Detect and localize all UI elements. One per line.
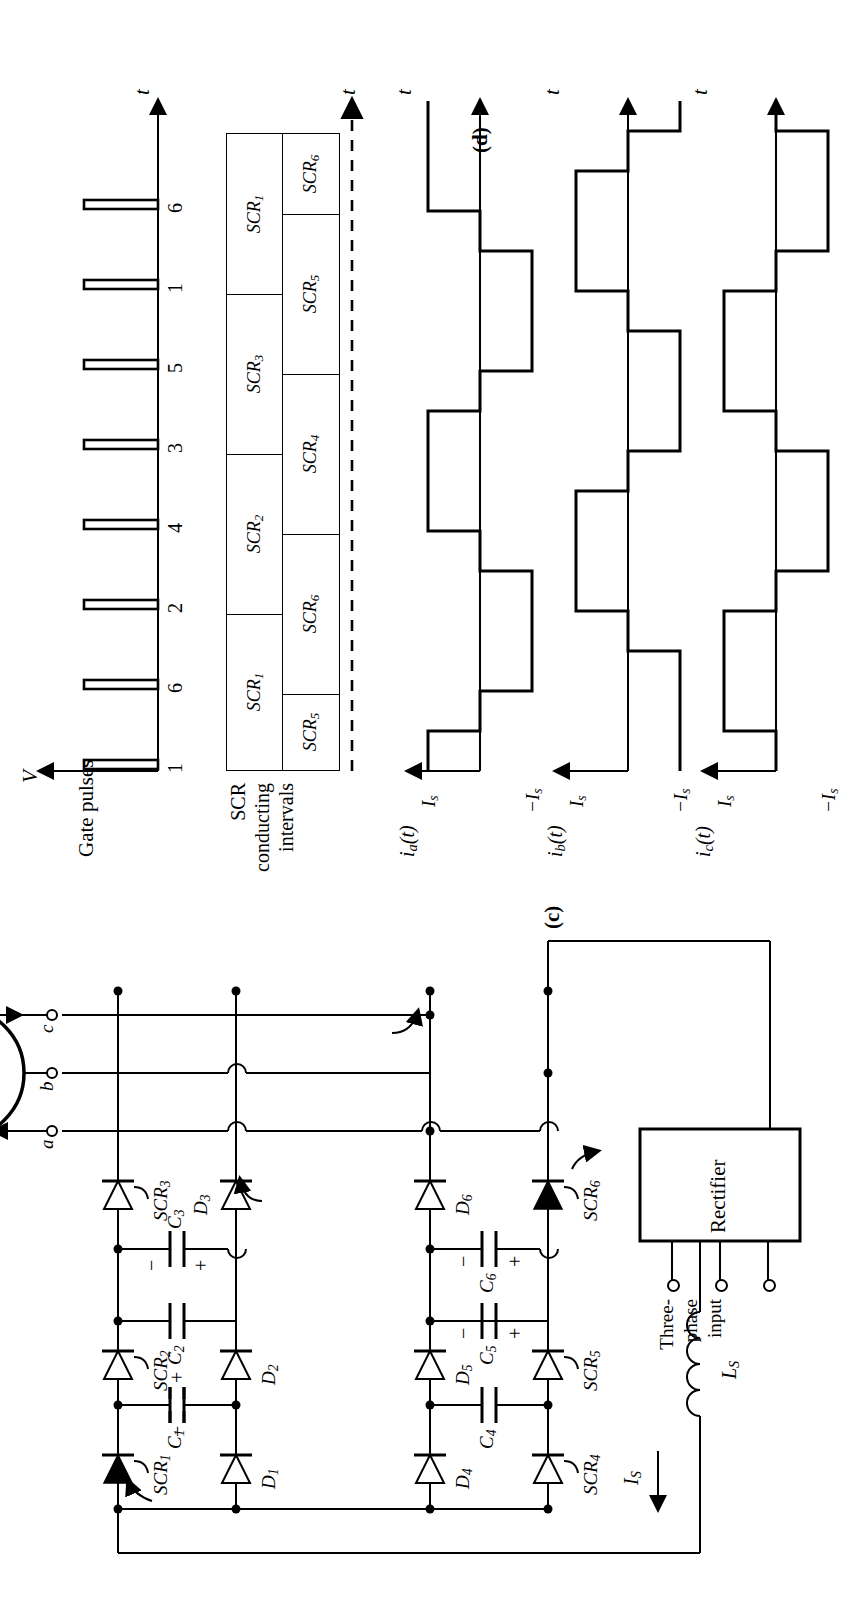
c3-minus-sign: − xyxy=(140,1260,163,1271)
scr-table-bottom-cell-3: SCR5 xyxy=(282,213,340,375)
d5-symbol xyxy=(414,1351,446,1379)
scr1-symbol xyxy=(102,1455,148,1483)
circuit-d2-label: D2 xyxy=(258,1364,282,1385)
scr-table-bottom-cell-1: SCR6 xyxy=(282,533,340,695)
gate-tick-1: 6 xyxy=(164,683,187,693)
ic-level-neg-label: −Is xyxy=(818,789,842,813)
scr2-symbol xyxy=(102,1351,148,1379)
ic-waveform-svg xyxy=(696,41,843,801)
ib-level-pos-label: Is xyxy=(566,795,590,807)
ib-axis-label: ib(t) xyxy=(544,825,569,857)
phase-a-terminal-label: a xyxy=(36,1140,58,1150)
source-current-label: IS xyxy=(620,1471,645,1485)
c6-minus-sign: − xyxy=(452,1256,475,1267)
gate-axis-v-label: V xyxy=(18,770,43,783)
circuit-scr4-label: SCR4 xyxy=(580,1454,604,1495)
ia-waveform-svg xyxy=(400,41,570,801)
scr-conducting-intervals-caption: SCR conducting intervals xyxy=(226,783,298,885)
scr-table-top-cell-0: SCR1 xyxy=(226,613,284,771)
scr-table-bottom-cell-4: SCR6 xyxy=(282,133,340,215)
input-terminal-3 xyxy=(763,1279,776,1292)
input-terminal-2 xyxy=(715,1279,728,1292)
ia-level-neg-label: −Is xyxy=(522,789,546,813)
circuit-scr5-label: SCR5 xyxy=(580,1350,604,1391)
scr5-symbol xyxy=(532,1351,578,1379)
circuit-d6-label: D6 xyxy=(452,1194,476,1215)
gate-tick-3: 4 xyxy=(164,523,187,533)
gate-tick-0: 1 xyxy=(164,763,187,773)
circuit-d1-label: D1 xyxy=(258,1468,282,1489)
phase-b-terminal-label: b xyxy=(36,1082,58,1092)
c3-plus-sign: + xyxy=(190,1260,213,1271)
c5-minus-sign: − xyxy=(452,1328,475,1339)
three-phase-input-label: Three- phase input xyxy=(655,1299,726,1373)
circuit-scr6-label: SCR6 xyxy=(580,1180,604,1221)
scr3-symbol xyxy=(102,1181,148,1209)
circuit-c6-label: C6 xyxy=(476,1273,500,1293)
gate-pulse-svg xyxy=(18,41,218,801)
d4-symbol xyxy=(414,1455,446,1483)
phase-c-terminal-label: c xyxy=(36,1025,58,1033)
circuit-c2-label: C2 xyxy=(164,1345,188,1365)
scr-table-bottom-cell-0: SCR5 xyxy=(282,693,340,771)
d2-symbol xyxy=(220,1351,252,1379)
scr-table-axis-t-label: t xyxy=(336,89,361,95)
gate-tick-5: 5 xyxy=(164,363,187,373)
gate-tick-6: 1 xyxy=(164,283,187,293)
ia-axis-t-label: t xyxy=(392,89,417,95)
circuit-d5-label: D5 xyxy=(452,1364,476,1385)
gate-tick-7: 6 xyxy=(164,203,187,213)
gate-pulses-caption: Gate pulses xyxy=(74,785,99,857)
part-d-caption: (d) xyxy=(468,127,493,153)
ib-axis-t-label: t xyxy=(540,89,565,95)
gate-pulse-train xyxy=(84,200,158,769)
ic-axis-t-label: t xyxy=(688,89,713,95)
ia-axis-label: ia(t) xyxy=(396,825,421,857)
scr-table-top-cell-1: SCR2 xyxy=(226,453,284,615)
circuit-c5-label: C5 xyxy=(476,1345,500,1365)
scr4-symbol xyxy=(532,1455,578,1483)
scr-table-top-cell-2: SCR3 xyxy=(226,293,284,455)
input-terminal-1 xyxy=(667,1279,680,1292)
scr-table-top-cell-3: SCR1 xyxy=(226,133,284,295)
part-c-caption: (c) xyxy=(540,906,565,929)
scr6-symbol xyxy=(532,1181,578,1209)
ib-waveform-svg xyxy=(548,41,718,801)
ib-level-neg-label: −Is xyxy=(670,789,694,813)
circuit-d3-label: D3 xyxy=(190,1194,214,1215)
circuit-d4-label: D4 xyxy=(452,1468,476,1489)
rectifier-label: Rectifier xyxy=(706,1160,731,1233)
circuit-c3-label: C3 xyxy=(164,1209,188,1229)
c5-plus-sign: + xyxy=(504,1328,527,1339)
c1-plus-sign: + xyxy=(166,1372,189,1383)
ic-axis-label: ic(t) xyxy=(692,826,717,857)
gate-axis-t-label: t xyxy=(130,89,155,95)
scr-table-bottom-cell-2: SCR4 xyxy=(282,373,340,535)
ia-level-pos-label: Is xyxy=(418,795,442,807)
ic-level-pos-label: Is xyxy=(714,795,738,807)
c6-plus-sign: + xyxy=(504,1256,527,1267)
d6-symbol xyxy=(414,1181,446,1209)
d1-symbol xyxy=(220,1455,252,1483)
circuit-scr1-label: SCR1 xyxy=(150,1454,174,1495)
gate-tick-2: 2 xyxy=(164,603,187,613)
gate-tick-4: 3 xyxy=(164,443,187,453)
circuit-c4-label: C4 xyxy=(476,1429,500,1449)
scr-table-time-axis xyxy=(338,41,378,801)
c1-minus-sign: − xyxy=(166,1426,189,1437)
